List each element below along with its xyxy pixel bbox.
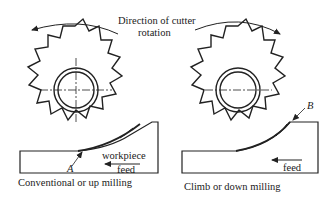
right-caption: Climb or down milling [184, 181, 281, 192]
title-line-1: Direction of cutter [118, 15, 196, 26]
workpiece-label: workpiece [102, 150, 146, 161]
title-line-2: rotation [138, 27, 171, 38]
left-caption: Conventional or up milling [18, 177, 132, 188]
rotation-arrow-cw-icon [195, 22, 280, 34]
right-cutter [191, 19, 285, 120]
left-cutter [28, 19, 122, 122]
point-b-label: B [307, 100, 313, 111]
left-feed-label: feed [117, 164, 135, 175]
left-workpiece [20, 122, 158, 173]
point-a-label: A [67, 163, 73, 174]
cutter-teeth [191, 19, 285, 120]
right-feed-label: feed [283, 162, 301, 173]
cutter-teeth [28, 19, 122, 120]
